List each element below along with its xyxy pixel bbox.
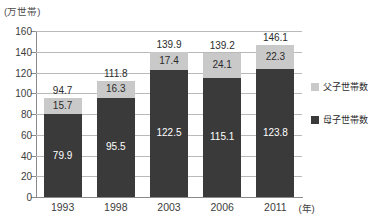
y-tick-label: 0 [2,192,32,203]
bar-value-label: 115.1 [203,132,241,142]
y-axis-unit-caption: (万世帯) [4,4,40,18]
y-tick-label: 20 [2,171,32,182]
chart-legend: 父子世帯数 母子世帯数 [311,80,373,146]
bar-segment-mother-child: 122.5 [150,70,188,197]
x-axis-unit-label: (年) [298,201,314,215]
bar-segment-father-child: 16.3 [97,81,135,98]
bar-segment-mother-child: 115.1 [203,78,241,197]
bar-segment-father-child: 17.4 [150,52,188,70]
bar-value-label: 123.8 [256,128,294,138]
x-tick-label: 1998 [86,201,146,213]
legend-item-mother-child: 母子世帯数 [311,113,373,126]
x-axis-line [36,197,303,198]
legend-item-father-child: 父子世帯数 [311,80,373,93]
bar-total-label: 139.9 [144,40,194,50]
x-tick-label: 1993 [33,201,93,213]
legend-swatch-icon [311,116,319,124]
y-tick-label: 40 [2,150,32,161]
bar-total-label: 146.1 [250,33,300,43]
bar-segment-mother-child: 123.8 [256,69,294,197]
bar-value-label: 24.1 [203,60,241,70]
y-tick-label: 60 [2,129,32,140]
bar-value-label: 79.9 [44,151,82,161]
legend-label: 母子世帯数 [323,113,368,126]
bar-value-label: 15.7 [44,101,82,111]
x-tick-label: 2011 [245,201,305,213]
bar-segment-father-child: 24.1 [203,53,241,78]
legend-label: 父子世帯数 [323,80,368,93]
y-tick-label: 80 [2,109,32,120]
y-tick-label: 100 [2,88,32,99]
y-tick-label: 160 [2,26,32,37]
bar-value-label: 122.5 [150,128,188,138]
bar-segment-father-child: 22.3 [256,45,294,68]
bar-value-label: 95.5 [97,142,135,152]
bar-value-label: 16.3 [97,84,135,94]
bar-value-label: 17.4 [150,56,188,66]
bar-total-label: 94.7 [38,86,88,96]
bar-segment-mother-child: 79.9 [44,114,82,197]
legend-swatch-icon [311,83,319,91]
bar-total-label: 111.8 [91,69,141,79]
bar-total-label: 139.2 [197,41,247,51]
y-tick-label: 120 [2,67,32,78]
plot-area: 79.915.794.795.516.3111.8122.517.4139.91… [36,31,302,197]
bar-segment-mother-child: 95.5 [97,98,135,197]
bar-value-label: 22.3 [256,52,294,62]
y-tick-label: 140 [2,46,32,57]
x-tick-label: 2003 [139,201,199,213]
bar-segment-father-child: 15.7 [44,98,82,114]
chart-container: (万世帯) 79.915.794.795.516.3111.8122.517.4… [0,0,374,220]
x-tick-label: 2006 [192,201,252,213]
